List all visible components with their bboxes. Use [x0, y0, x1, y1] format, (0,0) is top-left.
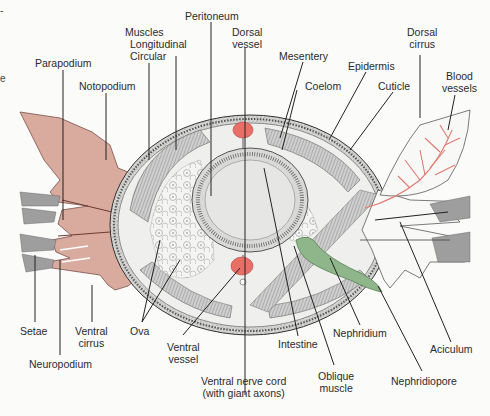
label-neuropodium: Neuropodium	[29, 358, 92, 370]
label-mesentery: Mesentery	[279, 50, 328, 62]
label-coelom: Coelom	[305, 80, 341, 92]
label-dorsal-vessel: Dorsal vessel	[232, 26, 262, 50]
ventral-vessel	[231, 257, 253, 275]
label-cuticle: Cuticle	[378, 80, 410, 92]
label-parapodium: Parapodium	[35, 57, 92, 69]
label-oblique-muscle: Oblique muscle	[318, 370, 354, 394]
intestine	[192, 148, 308, 252]
label-blood-vessels: Blood vessels	[442, 70, 477, 94]
label-aciculum: Aciculum	[430, 343, 473, 355]
label-peritoneum: Peritoneum	[185, 10, 239, 22]
label-intestine: Intestine	[278, 338, 318, 350]
label-ova: Ova	[130, 325, 149, 337]
label-ventral-vessel: Ventral vessel	[167, 341, 200, 365]
right-parapodium	[360, 110, 470, 288]
label-longitudinal: Longitudinal	[130, 38, 187, 50]
label-nephridiopore: Nephridiopore	[391, 375, 457, 387]
label-muscles: Muscles	[125, 26, 164, 38]
label-ventral-cirrus: Ventral cirrus	[75, 325, 108, 349]
label-setae: Setae	[20, 325, 47, 337]
label-epidermis: Epidermis	[348, 60, 395, 72]
dorsal-vessel	[233, 122, 253, 138]
edge-fragment: e	[0, 73, 6, 84]
label-ventral-nerve-cord: Ventral nerve cord (with giant axons)	[201, 375, 286, 399]
label-notopodium: Notopodium	[79, 80, 136, 92]
edge-fragment: -	[0, 5, 3, 16]
label-nephridium: Nephridium	[333, 327, 387, 339]
diagram-canvas: - e Peritoneum Muscles Longitudinal Circ…	[0, 0, 490, 416]
label-circular: Circular	[130, 50, 166, 62]
label-dorsal-cirrus: Dorsal cirrus	[407, 26, 437, 50]
